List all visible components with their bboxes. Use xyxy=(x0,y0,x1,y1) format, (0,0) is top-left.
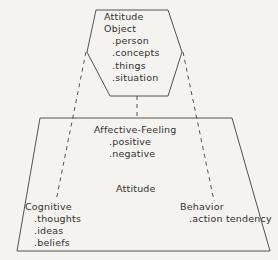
connector-right-dashed xyxy=(183,52,214,201)
cognitive-item-ideas: .ideas xyxy=(25,225,81,237)
attitude-object-item-things: .things xyxy=(103,60,160,72)
attitude-object-item-person: .person xyxy=(103,35,160,47)
attitude-center-label: Attitude xyxy=(116,183,156,195)
affective-heading: Affective-Feeling xyxy=(94,124,177,136)
attitude-object-heading-line-1: Attitude xyxy=(104,11,160,23)
cognitive-group: Cognitive .thoughts .ideas .beliefs xyxy=(25,201,81,250)
attitude-object-item-situation: .situation xyxy=(103,72,160,84)
attitude-diagram: Attitude Object .person .concepts .thing… xyxy=(0,0,278,260)
cognitive-item-thoughts: .thoughts xyxy=(25,213,81,225)
attitude-object-heading-line-2: Object xyxy=(104,23,160,35)
behavior-group: Behavior .action tendency xyxy=(180,201,272,225)
behavior-heading: Behavior xyxy=(180,201,272,213)
cognitive-heading: Cognitive xyxy=(25,201,81,213)
connector-left-dashed xyxy=(56,52,86,201)
affective-item-negative: .negative xyxy=(94,148,177,160)
affective-item-positive: .positive xyxy=(94,136,177,148)
affective-group: Affective-Feeling .positive .negative xyxy=(94,124,177,160)
cognitive-item-beliefs: .beliefs xyxy=(25,237,81,249)
attitude-object-group: Attitude Object .person .concepts .thing… xyxy=(103,11,160,84)
attitude-object-item-concepts: .concepts xyxy=(103,47,160,59)
behavior-item-action-tendency: .action tendency xyxy=(180,213,272,225)
